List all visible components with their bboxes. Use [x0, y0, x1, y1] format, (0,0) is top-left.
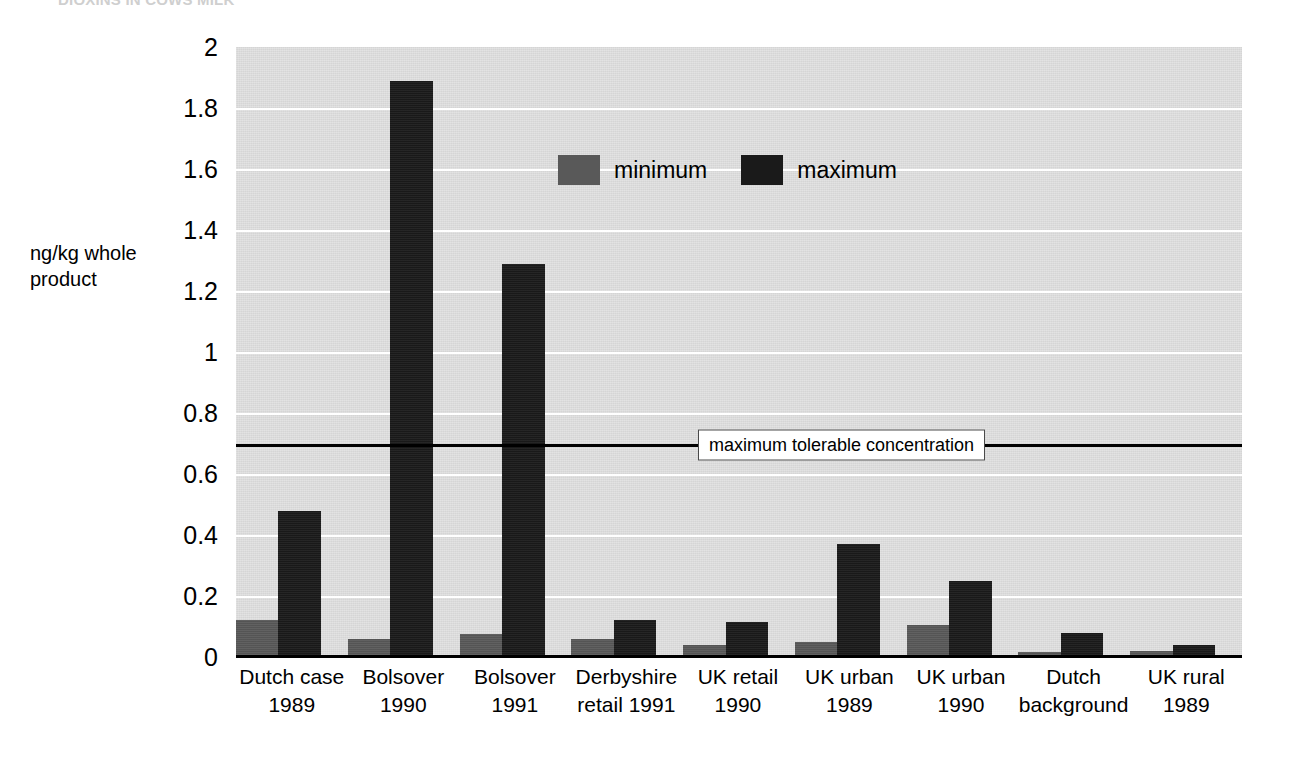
chart-legend: minimum maximum — [558, 155, 897, 185]
y-axis-tick-label: 0.2 — [183, 584, 218, 609]
bar-group — [1018, 47, 1130, 657]
x-axis-category-label: UK urban 1990 — [905, 663, 1017, 719]
y-axis-tick-label: 0.8 — [183, 401, 218, 426]
bar-maximum — [837, 544, 879, 657]
bar-group — [460, 47, 572, 657]
bar-group — [348, 47, 460, 657]
y-axis-tick-label: 1.2 — [183, 279, 218, 304]
y-axis-tick-label: 1.6 — [183, 157, 218, 182]
x-axis-category-label: Dutch case 1989 — [236, 663, 348, 719]
x-axis-category-label: Derbyshire retail 1991 — [571, 663, 683, 719]
threshold-label: maximum tolerable concentration — [698, 430, 985, 461]
bar-group — [683, 47, 795, 657]
bar-maximum — [726, 622, 768, 657]
bar-chart: ng/kg whole product 21.81.61.41.210.80.6… — [0, 0, 1296, 763]
x-axis-category-label: UK urban 1989 — [794, 663, 906, 719]
bar-group — [571, 47, 683, 657]
bar-maximum — [614, 620, 656, 657]
bar-maximum — [278, 511, 320, 657]
x-axis-category-label: Dutch background — [1017, 663, 1131, 719]
x-axis-category-label: UK rural 1989 — [1130, 663, 1242, 719]
bar-minimum — [460, 634, 502, 657]
bar-minimum — [236, 620, 278, 657]
legend-swatch-maximum-icon — [741, 155, 783, 185]
bar-group — [795, 47, 907, 657]
y-axis-tick-labels: 21.81.61.41.210.80.60.40.20 — [150, 47, 228, 657]
bar-maximum — [949, 581, 991, 657]
y-axis-tick-label: 1.8 — [183, 96, 218, 121]
x-axis-category-labels: Dutch case 1989Bolsover 1990Bolsover 199… — [236, 663, 1242, 719]
y-axis-tick-label: 0.6 — [183, 462, 218, 487]
bar-maximum — [502, 264, 544, 657]
legend-item-minimum: minimum — [558, 155, 707, 185]
x-axis-category-label: UK retail 1990 — [682, 663, 794, 719]
x-axis-category-label: Bolsover 1990 — [348, 663, 460, 719]
y-axis-tick-label: 2 — [204, 35, 218, 60]
bar-minimum — [907, 625, 949, 657]
y-axis-tick-label: 1.4 — [183, 218, 218, 243]
bar-group — [236, 47, 348, 657]
bar-groups — [236, 47, 1242, 657]
x-axis-category-label: Bolsover 1991 — [459, 663, 571, 719]
bar-group — [1130, 47, 1242, 657]
x-axis-baseline — [236, 655, 1242, 658]
plot-area: maximum tolerable concentration minimum … — [236, 47, 1242, 657]
bar-maximum — [1061, 633, 1103, 657]
y-axis-tick-label: 1 — [204, 340, 218, 365]
legend-swatch-minimum-icon — [558, 155, 600, 185]
y-axis-tick-label: 0.4 — [183, 523, 218, 548]
legend-label-maximum: maximum — [797, 159, 897, 182]
legend-item-maximum: maximum — [741, 155, 897, 185]
legend-label-minimum: minimum — [614, 159, 707, 182]
bar-maximum — [390, 81, 432, 657]
threshold-line: maximum tolerable concentration — [236, 444, 1242, 447]
y-axis-tick-label: 0 — [204, 645, 218, 670]
bar-group — [907, 47, 1019, 657]
